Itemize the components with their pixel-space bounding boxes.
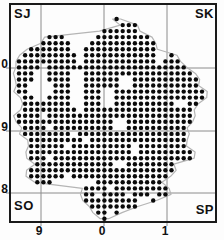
presence-dot: [114, 144, 118, 148]
presence-dot: [53, 114, 57, 118]
presence-dot: [60, 138, 64, 142]
presence-dot: [29, 156, 33, 160]
presence-dot: [72, 168, 76, 172]
presence-dot: [139, 150, 143, 154]
presence-dot: [139, 138, 143, 142]
presence-dot: [84, 126, 88, 130]
presence-dot: [108, 126, 112, 130]
presence-dot: [35, 156, 39, 160]
presence-dot: [127, 53, 131, 57]
presence-dot: [127, 180, 131, 184]
presence-dot: [35, 132, 39, 136]
presence-dot: [90, 198, 94, 202]
presence-dot: [96, 35, 100, 39]
presence-dot: [102, 35, 106, 39]
presence-dot: [133, 108, 137, 112]
presence-dot: [139, 35, 143, 39]
presence-dot: [157, 138, 161, 142]
presence-dot: [66, 59, 70, 63]
presence-dot: [90, 144, 94, 148]
presence-dot: [182, 120, 186, 124]
presence-dot: [169, 144, 173, 148]
presence-dot: [139, 156, 143, 160]
presence-dot: [35, 180, 39, 184]
presence-dot: [47, 41, 51, 45]
presence-dot: [60, 132, 64, 136]
presence-dot: [163, 102, 167, 106]
presence-dot: [139, 120, 143, 124]
presence-dot: [133, 180, 137, 184]
presence-dot: [90, 186, 94, 190]
presence-dot: [133, 168, 137, 172]
presence-dot: [84, 108, 88, 112]
presence-dot: [151, 174, 155, 178]
presence-dot: [121, 71, 125, 75]
presence-dot: [72, 156, 76, 160]
presence-dot: [41, 59, 45, 63]
presence-dot: [151, 83, 155, 87]
presence-dot: [96, 198, 100, 202]
presence-dot: [102, 217, 106, 221]
presence-dot: [108, 162, 112, 166]
presence-dot: [60, 150, 64, 154]
x-axis-label: 0: [95, 224, 109, 238]
presence-dot: [96, 77, 100, 81]
presence-dot: [60, 59, 64, 63]
presence-dot: [145, 77, 149, 81]
presence-dot: [96, 132, 100, 136]
presence-dot: [78, 156, 82, 160]
presence-dot: [175, 71, 179, 75]
presence-dot: [35, 108, 39, 112]
presence-dot: [121, 168, 125, 172]
presence-dot: [53, 102, 57, 106]
presence-dot: [169, 132, 173, 136]
presence-dot: [84, 59, 88, 63]
presence-dot: [127, 132, 131, 136]
presence-dot: [108, 65, 112, 69]
presence-dot: [127, 144, 131, 148]
presence-dot: [84, 114, 88, 118]
presence-dot: [47, 95, 51, 99]
presence-dot: [114, 156, 118, 160]
presence-dot: [78, 144, 82, 148]
os-grid-letter-sp: SP: [196, 203, 214, 217]
presence-dot: [151, 150, 155, 154]
presence-dot: [66, 65, 70, 69]
presence-dot: [139, 162, 143, 166]
presence-dot: [188, 71, 192, 75]
presence-dot: [169, 71, 173, 75]
presence-dot: [90, 71, 94, 75]
presence-dot: [108, 120, 112, 124]
presence-dot: [23, 126, 27, 130]
presence-dot: [182, 71, 186, 75]
presence-dot: [90, 108, 94, 112]
presence-dot: [127, 150, 131, 154]
presence-dot: [41, 53, 45, 57]
presence-dot: [108, 180, 112, 184]
presence-dot: [121, 204, 125, 208]
presence-dot: [23, 77, 27, 81]
presence-dot: [139, 126, 143, 130]
presence-dot: [133, 83, 137, 87]
presence-dot: [35, 102, 39, 106]
presence-dot: [102, 47, 106, 51]
presence-dot: [102, 186, 106, 190]
presence-dot: [96, 59, 100, 63]
presence-dot: [60, 120, 64, 124]
presence-dot: [157, 126, 161, 130]
presence-dot: [29, 174, 33, 178]
presence-dot: [182, 126, 186, 130]
presence-dot: [17, 65, 21, 69]
presence-dot: [139, 168, 143, 172]
presence-dot: [78, 126, 82, 130]
presence-dot: [66, 168, 70, 172]
presence-dot: [72, 108, 76, 112]
presence-dot: [84, 162, 88, 166]
presence-dot: [139, 180, 143, 184]
presence-dot: [145, 47, 149, 51]
presence-dot: [96, 150, 100, 154]
presence-dot: [53, 138, 57, 142]
presence-dot: [127, 174, 131, 178]
presence-dot: [41, 168, 45, 172]
presence-dot: [182, 138, 186, 142]
